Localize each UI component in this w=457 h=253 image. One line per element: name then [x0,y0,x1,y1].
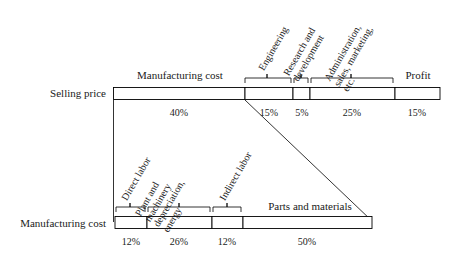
diagram-vector-layer [0,0,457,253]
brace-indirect-labor [213,203,241,212]
selling-price-bar [114,88,441,100]
percent-direct-labor: 12% [106,236,156,247]
segment-indirect-labor[interactable] [212,217,243,229]
segment-research-and-development[interactable] [293,88,310,100]
header-manufacturing-cost: Manufacturing cost [125,69,235,81]
percent-manufacturing-cost: 40% [154,107,204,118]
cost-breakdown-diagram: Selling price Manufacturing cost Manufac… [0,0,457,253]
manufacturing-cost-row-label: Manufacturing cost [2,217,106,229]
selling-price-row-label: Selling price [8,87,106,99]
percent-parts-and-materials: 50% [282,236,332,247]
percent-indirect-labor: 12% [202,236,252,247]
brace-engineering [245,74,291,83]
percent-profit: 15% [392,107,442,118]
segment-profit[interactable] [395,88,440,100]
percent-research-and-development: 5% [277,107,327,118]
segment-administration-sales-marketing[interactable] [310,88,395,100]
header-parts-and-materials: Parts and materials [255,200,365,212]
percent-plant-machinery-depreciation-energy: 26% [154,236,204,247]
header-profit: Profit [397,69,439,81]
segment-parts-and-materials[interactable] [243,217,372,229]
percent-administration-sales-marketing: 25% [327,107,377,118]
top-braces [245,74,393,83]
segment-manufacturing-cost[interactable] [114,88,246,100]
segment-engineering[interactable] [245,88,293,100]
